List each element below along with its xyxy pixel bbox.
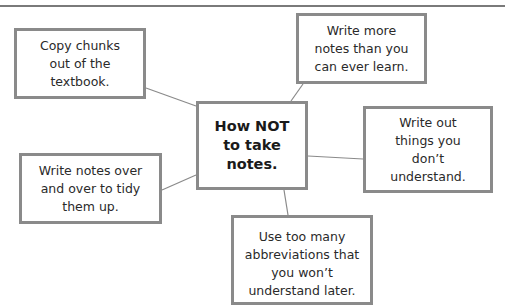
branch-write-out-things: Write out things you don’t understand. (363, 106, 493, 193)
center-topic: How NOT to take notes. (196, 101, 308, 190)
branch-write-more-notes: Write more notes than you can ever learn… (296, 13, 427, 84)
branch-label: Write notes over and over to tidy them u… (39, 162, 143, 216)
connector-write-notes-over (162, 175, 196, 190)
branch-write-notes-over: Write notes over and over to tidy them u… (19, 153, 162, 224)
branch-label: Use too many abbreviations that you won’… (245, 228, 359, 300)
center-label: How NOT to take notes. (215, 117, 290, 174)
connector-write-out (308, 156, 363, 159)
connector-copy-chunks (146, 88, 196, 106)
branch-label: Write more notes than you can ever learn… (315, 22, 409, 76)
connector-write-more (291, 84, 303, 101)
connector-abbreviations (284, 190, 288, 215)
branch-too-many-abbreviations: Use too many abbreviations that you won’… (231, 215, 373, 305)
branch-label: Copy chunks out of the textbook. (40, 37, 120, 91)
branch-copy-chunks: Copy chunks out of the textbook. (14, 28, 146, 99)
branch-label: Write out things you don’t understand. (390, 114, 466, 186)
